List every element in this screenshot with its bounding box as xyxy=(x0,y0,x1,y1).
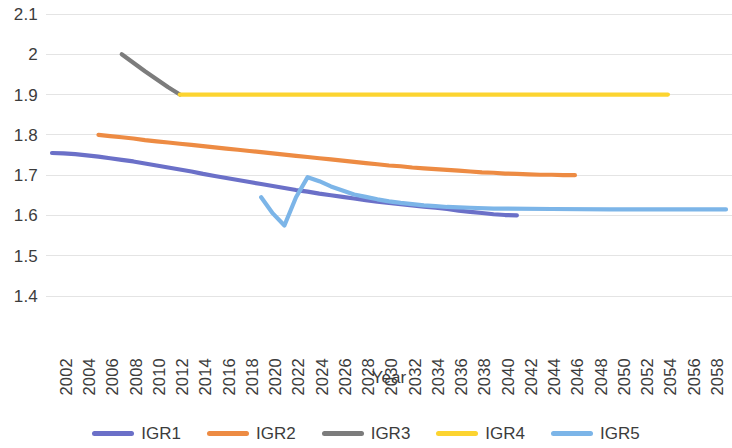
series-group xyxy=(52,54,726,225)
chart-legend: IGR1IGR2IGR3IGR4IGR5 xyxy=(0,418,732,448)
y-axis-tick-label: 1.5 xyxy=(0,248,38,265)
y-axis: 2.121.91.81.71.61.51.4 xyxy=(0,0,38,310)
legend-swatch-igr1 xyxy=(92,431,134,436)
legend-label: IGR5 xyxy=(600,425,640,442)
legend-item-igr4[interactable]: IGR4 xyxy=(436,425,525,442)
y-axis-tick-label: 1.9 xyxy=(0,87,38,104)
plot-area xyxy=(46,0,732,300)
y-axis-tick-label: 2.1 xyxy=(0,6,38,23)
y-axis-tick-label: 1.6 xyxy=(0,207,38,224)
y-axis-tick-label: 1.7 xyxy=(0,167,38,184)
y-axis-tick-label: 1.8 xyxy=(0,127,38,144)
legend-item-igr2[interactable]: IGR2 xyxy=(207,425,296,442)
series-line-igr5 xyxy=(261,177,726,225)
y-axis-tick-label: 2 xyxy=(0,46,38,63)
legend-swatch-igr5 xyxy=(551,431,593,436)
gridlines xyxy=(46,14,732,296)
line-chart: 2.121.91.81.71.61.51.4 20022004200620082… xyxy=(0,0,732,448)
series-line-igr3 xyxy=(122,54,180,94)
legend-label: IGR3 xyxy=(371,425,411,442)
plot-svg xyxy=(46,0,732,300)
legend-swatch-igr4 xyxy=(436,431,478,436)
legend-item-igr3[interactable]: IGR3 xyxy=(322,425,411,442)
x-axis: 2002200420062008201020122014201620182020… xyxy=(46,300,732,362)
legend-label: IGR2 xyxy=(256,425,296,442)
legend-item-igr1[interactable]: IGR1 xyxy=(92,425,181,442)
legend-swatch-igr3 xyxy=(322,431,364,436)
legend-label: IGR4 xyxy=(485,425,525,442)
legend-item-igr5[interactable]: IGR5 xyxy=(551,425,640,442)
x-axis-title: Year xyxy=(46,368,732,388)
legend-swatch-igr2 xyxy=(207,431,249,436)
legend-label: IGR1 xyxy=(141,425,181,442)
y-axis-tick-label: 1.4 xyxy=(0,288,38,305)
